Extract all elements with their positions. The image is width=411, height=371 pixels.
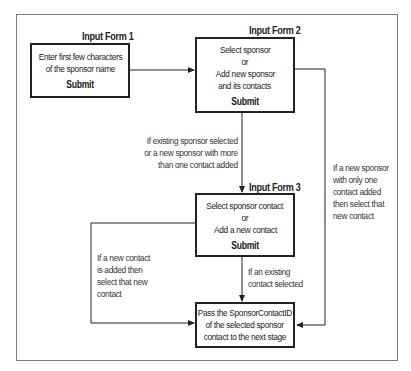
form2-line: and its contacts — [219, 80, 272, 92]
condition-line: If existing sponsor selected — [144, 135, 238, 147]
form2-line: or — [242, 56, 249, 68]
form3-submit-label: Submit — [231, 240, 259, 251]
form3-line: Add a new contact — [214, 224, 277, 236]
form3-line: Select sponsor contact — [207, 200, 284, 212]
form1-line: of the sponsor name — [45, 63, 115, 75]
condition-line: new contact — [333, 210, 389, 222]
condition-line: If a new contact — [97, 252, 150, 264]
condition-line: then select that — [333, 198, 389, 210]
input-form-1-box: Enter first few characters of the sponso… — [30, 43, 130, 98]
result-line: Pass the SponsorContactID — [198, 307, 292, 319]
form1-title: Input Form 1 — [82, 30, 134, 42]
form1-submit-label: Submit — [66, 79, 94, 90]
flow-diagram: Input Form 1 Enter first few characters … — [0, 0, 411, 371]
form3-line: or — [242, 212, 249, 224]
condition-line: with only one — [333, 174, 389, 186]
form3-title: Input Form 3 — [249, 181, 301, 193]
input-form-2-box: Select sponsor or Add new sponsor and it… — [195, 37, 295, 113]
condition-new-sponsor-one-contact: If a new sponsor with only one contact a… — [333, 162, 389, 222]
form2-title: Input Form 2 — [249, 24, 301, 36]
condition-line: contact selected — [248, 278, 303, 290]
condition-existing-contact: If an existing contact selected — [248, 266, 303, 290]
condition-existing-or-multi-contact: If existing sponsor selected or a new sp… — [144, 135, 238, 171]
form2-line: Add new sponsor — [215, 68, 274, 80]
result-line: of the selected sponsor — [206, 319, 284, 331]
condition-new-contact-added: If a new contact is added then select th… — [97, 252, 150, 300]
condition-line: or a new sponsor with more — [144, 147, 238, 159]
form2-submit-label: Submit — [231, 96, 259, 107]
result-pass-sponsor-contact-id-box: Pass the SponsorContactID of the selecte… — [195, 302, 295, 348]
condition-line: is added then — [97, 264, 150, 276]
condition-line: contact — [97, 288, 150, 300]
condition-line: than one contact added — [144, 159, 238, 171]
form2-line: Select sponsor — [220, 44, 270, 56]
form1-line: Enter first few characters — [38, 51, 121, 63]
condition-line: If a new sponsor — [333, 162, 389, 174]
condition-line: contact added — [333, 186, 389, 198]
input-form-3-box: Select sponsor contact or Add a new cont… — [195, 193, 295, 257]
result-line: contact to the next stage — [204, 331, 286, 343]
condition-line: select that new — [97, 276, 150, 288]
condition-line: If an existing — [248, 266, 303, 278]
